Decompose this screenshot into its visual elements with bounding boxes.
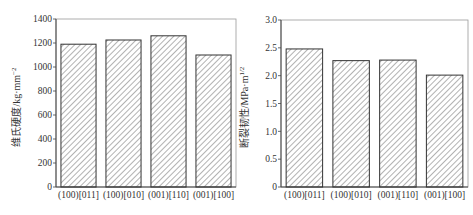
- bar: [333, 61, 369, 187]
- bar: [61, 44, 96, 187]
- y-tick-label: 400: [38, 134, 53, 144]
- bar: [426, 75, 462, 187]
- bar: [380, 60, 416, 187]
- fracture-toughness-chart: 00.51.01.52.02.53.0(100)[011](100)[010](…: [238, 15, 468, 201]
- y-tick-label: 1400: [33, 14, 52, 24]
- bar: [196, 55, 231, 187]
- y-axis-title: 断裂韧性/MPa·m1/2: [238, 66, 250, 148]
- bar: [151, 36, 186, 187]
- chart-canvas: 0200400600800100012001400(100)[011](100)…: [0, 0, 473, 215]
- y-tick-label: 2.0: [265, 71, 277, 81]
- y-tick-label: 0: [47, 182, 52, 192]
- hardness-chart: 0200400600800100012001400(100)[011](100)…: [10, 14, 236, 201]
- y-tick-label: 200: [38, 158, 53, 168]
- y-tick-label: 1.0: [265, 127, 277, 137]
- bar: [286, 49, 322, 187]
- y-tick-label: 0: [272, 182, 277, 192]
- y-tick-label: 800: [38, 86, 53, 96]
- x-category-label: (001)[110]: [377, 190, 418, 201]
- y-tick-label: 1200: [33, 38, 52, 48]
- x-category-label: (100)[011]: [58, 190, 99, 201]
- y-tick-label: 2.5: [265, 43, 277, 53]
- x-category-label: (001)[110]: [148, 190, 189, 201]
- x-category-label: (100)[010]: [331, 190, 372, 201]
- x-category-label: (001)[100]: [424, 190, 465, 201]
- y-tick-label: 1.5: [265, 99, 277, 109]
- x-category-label: (100)[011]: [284, 190, 325, 201]
- y-tick-label: 1000: [33, 62, 52, 72]
- y-tick-label: 3.0: [265, 15, 277, 25]
- y-axis-title: 维氏硬度/kg·mm−2: [10, 67, 22, 147]
- y-tick-label: 0.5: [265, 154, 277, 164]
- x-category-label: (100)[010]: [103, 190, 144, 201]
- x-category-label: (001)[100]: [193, 190, 234, 201]
- y-tick-label: 600: [38, 110, 53, 120]
- bar: [106, 40, 141, 187]
